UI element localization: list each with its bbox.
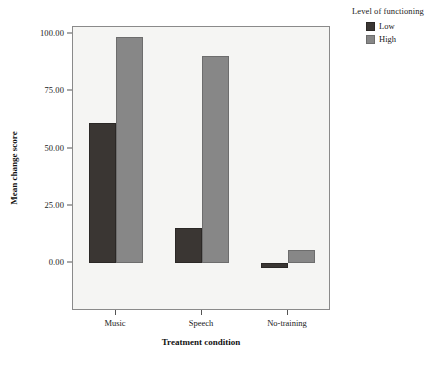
y-tick-label: 50.00 [18, 143, 64, 153]
legend-items: LowHigh [352, 21, 442, 44]
legend-label: Low [379, 21, 395, 31]
legend-label: High [379, 34, 396, 44]
bar-chart: Mean change score 0.0025.0050.0075.00100… [0, 0, 442, 365]
y-tick-label: 75.00 [18, 85, 64, 95]
y-tick-label: 0.00 [18, 257, 64, 267]
x-tick-label: No-training [267, 318, 307, 328]
bar-music-high [116, 37, 143, 263]
bar-no-training-high [288, 250, 315, 263]
bar-speech-low [175, 228, 202, 263]
legend-entry-high: High [366, 34, 442, 44]
bars-layer [73, 27, 329, 309]
legend: Level of functioning LowHigh [352, 6, 442, 47]
x-tick-mark [115, 310, 116, 315]
x-tick-mark [201, 310, 202, 315]
y-tick-label: 100.00 [18, 28, 64, 38]
y-tick-label: 25.00 [18, 200, 64, 210]
bar-music-low [89, 123, 116, 263]
legend-swatch-icon [366, 22, 375, 31]
bar-speech-high [202, 56, 229, 263]
x-tick-label: Music [104, 318, 125, 328]
legend-swatch-icon [366, 35, 375, 44]
legend-entry-low: Low [366, 21, 442, 31]
plot-area [72, 26, 330, 310]
legend-title: Level of functioning [352, 6, 442, 16]
x-tick-mark [287, 310, 288, 315]
x-axis-title: Treatment condition [162, 337, 240, 347]
bar-no-training-low [261, 263, 288, 268]
x-tick-label: Speech [189, 318, 214, 328]
